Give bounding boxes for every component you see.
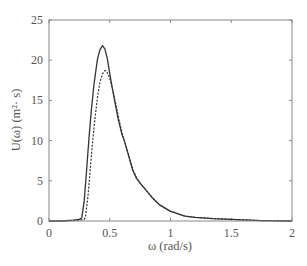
x-tick-label: 1	[168, 226, 174, 240]
y-tick-label: 20	[31, 53, 43, 67]
x-tick-label: 1.5	[224, 226, 239, 240]
x-tick-label: 0	[46, 226, 52, 240]
y-tick-label: 15	[31, 93, 43, 107]
y-axis-label: U(ω) (m²· s)	[9, 89, 23, 152]
y-tick-label: 5	[37, 174, 43, 188]
x-tick-label: 2	[289, 226, 295, 240]
y-tick-label: 10	[31, 134, 43, 148]
y-tick-label: 25	[31, 13, 43, 27]
x-tick-label: 0.5	[102, 226, 117, 240]
x-axis-label: ω (rad/s)	[148, 239, 192, 253]
chart: 00.511.52 0510152025 ω (rad/s) U(ω) (m²·…	[0, 0, 307, 266]
y-tick-label: 0	[37, 214, 43, 228]
